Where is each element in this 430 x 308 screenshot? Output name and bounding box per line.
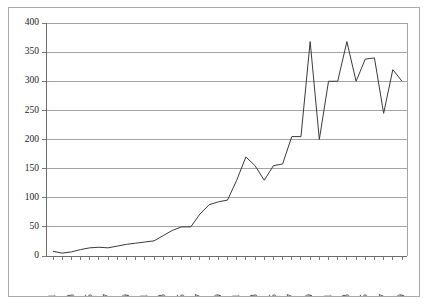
x-tick-label: 1887 bbox=[194, 294, 204, 296]
y-tick-label: 100 bbox=[25, 192, 40, 202]
x-tick-label: 1885 bbox=[176, 294, 186, 296]
y-tick-label: 250 bbox=[25, 105, 40, 115]
y-tick-label: 50 bbox=[30, 221, 40, 231]
y-tick-label: 350 bbox=[25, 46, 40, 56]
y-tick-label: 0 bbox=[34, 250, 39, 260]
y-tick-labels: 050100150200250300350400 bbox=[25, 17, 40, 260]
x-tick-label: 1893 bbox=[249, 294, 259, 296]
line-chart: 050100150200250300350400 187118731875187… bbox=[9, 8, 419, 296]
x-tick-label: 1901 bbox=[323, 294, 333, 296]
x-axis bbox=[46, 256, 407, 260]
x-tick-label: 1905 bbox=[359, 294, 369, 296]
x-tick-label: 1903 bbox=[341, 294, 351, 296]
y-tick-marks bbox=[42, 23, 46, 256]
x-tick-label: 1871 bbox=[47, 294, 57, 296]
y-tick-label: 150 bbox=[25, 163, 40, 173]
x-tick-label: 1899 bbox=[304, 294, 314, 296]
y-tick-label: 200 bbox=[25, 134, 40, 144]
x-tick-label: 1907 bbox=[378, 294, 388, 296]
x-tick-labels: 1871187318751877187918811883188518871889… bbox=[47, 294, 406, 296]
y-axis bbox=[42, 23, 46, 256]
x-tick-label: 1877 bbox=[102, 294, 112, 296]
y-tick-label: 300 bbox=[25, 75, 40, 85]
data-series-line bbox=[53, 42, 402, 253]
x-tick-label: 1875 bbox=[84, 294, 94, 296]
x-tick-label: 1889 bbox=[213, 294, 223, 296]
y-tick-label: 400 bbox=[25, 17, 40, 27]
x-tick-label: 1909 bbox=[396, 294, 406, 296]
gridlines bbox=[46, 23, 407, 256]
x-tick-label: 1873 bbox=[66, 294, 76, 296]
x-tick-label: 1881 bbox=[139, 294, 149, 296]
x-tick-marks bbox=[53, 256, 402, 260]
x-tick-label: 1879 bbox=[121, 294, 131, 296]
chart-frame: 050100150200250300350400 187118731875187… bbox=[8, 7, 420, 297]
x-tick-label: 1883 bbox=[157, 294, 167, 296]
x-tick-label: 1897 bbox=[286, 294, 296, 296]
x-tick-label: 1891 bbox=[231, 294, 241, 296]
x-tick-label: 1895 bbox=[268, 294, 278, 296]
